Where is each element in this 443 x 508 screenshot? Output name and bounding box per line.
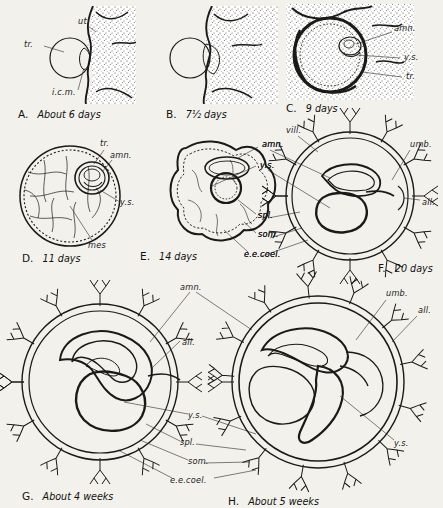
caption-C-letter: C. [286,102,297,114]
label-ys-ef: y.s. [259,160,274,170]
label-ys-c: y.s. [403,52,418,62]
figure-canvas: ut. tr. i.c.m. amn. y.s. tr. [0,0,443,508]
label-mes-d: mes [88,240,106,250]
caption-G-text: About 4 weeks [42,491,114,502]
label-all-g: all. [182,337,195,347]
label-spl-ef: spl. [258,210,273,220]
caption-B-letter: B. [166,108,177,120]
label-icm: i.c.m. [52,87,76,97]
caption-A-letter: A. [18,108,28,120]
label-tr-d: tr. [100,138,109,148]
label-tr-c: tr. [406,71,415,81]
caption-H-letter: H. [228,495,239,507]
caption-D-letter: D. [22,252,33,264]
embryo-development-figure: ut. tr. i.c.m. amn. y.s. tr. [0,0,443,508]
label-umb-h: umb. [386,288,408,298]
label-tr: tr. [24,39,33,49]
label-ys-h: y.s. [393,438,408,448]
caption-F-letter: F. [378,262,386,274]
label-eecoel-ef: e.e.coel. [244,249,281,259]
label-spl-shared: spl. [180,437,195,447]
label-amn-ef: amn. [262,139,284,149]
caption-F-text: 20 days [395,263,433,274]
caption-E-letter: E. [140,250,150,262]
label-ut: ut. [78,16,90,26]
caption-E-text: 14 days [159,251,197,262]
label-amn-c: amn. [394,23,416,33]
label-som-ef: som. [258,229,279,239]
label-ys-d: y.s. [119,197,134,207]
caption-A-text: About 6 days [36,109,100,120]
panel-B-uterine-wall [205,6,278,104]
caption-C-text: 9 days [306,103,338,114]
caption-B-text: 7½ days [186,109,227,120]
label-amn-d: amn. [110,150,132,160]
label-som-shared: som. [188,456,209,466]
caption-G-letter: G. [22,490,33,502]
caption-H-text: About 5 weeks [247,496,319,507]
label-eecoel-shared: e.e.coel. [170,475,207,485]
label-umb-f: umb. [410,139,432,149]
label-vill-f: vill. [286,125,301,135]
label-ys-shared: y.s. [187,410,202,420]
panel-C-diagram [286,4,414,100]
label-all-h: all. [418,305,431,315]
caption-D-text: 11 days [43,253,81,264]
label-all-f: all. [422,197,435,207]
label-amn-shared: amn. [180,282,202,292]
